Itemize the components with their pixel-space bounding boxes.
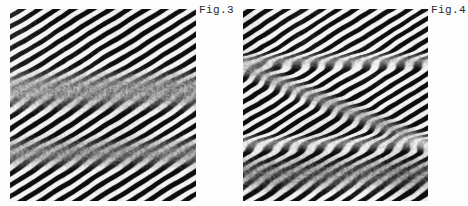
fig3-micrograph-image [10,9,196,201]
figure-3-label: Fig.3 [199,4,234,16]
figure-4 [243,9,428,201]
figure-4-label: Fig.4 [431,4,466,16]
fig4-micrograph-image [243,9,428,201]
scanned-page: Fig.3 Fig.4 [0,0,468,206]
figure-3 [10,9,196,201]
